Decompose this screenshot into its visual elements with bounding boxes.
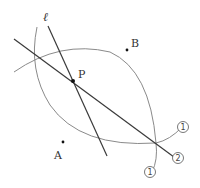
label-b: B — [131, 37, 139, 50]
svg-text:1: 1 — [180, 123, 185, 132]
construction-diagram: P B A ℓ 1 2 1 — [0, 0, 200, 188]
label-line-l: ℓ — [43, 10, 48, 24]
bisector-line — [14, 39, 178, 160]
point-p — [71, 79, 75, 83]
marker-arc-b: 1 — [145, 167, 156, 178]
label-a: A — [53, 149, 63, 162]
point-b — [126, 49, 129, 52]
svg-text:1: 1 — [147, 168, 152, 177]
marker-bisector: 2 — [173, 153, 184, 164]
svg-text:2: 2 — [175, 154, 180, 163]
point-a — [62, 141, 65, 144]
marker-arc-a: 1 — [178, 122, 189, 133]
label-p: P — [78, 68, 86, 81]
line-l — [48, 26, 107, 156]
